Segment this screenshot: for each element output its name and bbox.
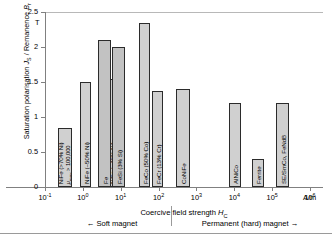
y-axis-tick xyxy=(41,47,46,48)
y-axis-tick-label: 0.5 xyxy=(0,148,38,156)
x-axis-tick-label: 102 xyxy=(139,193,179,202)
x-axis-line xyxy=(6,187,323,188)
bar-fe: Fe xyxy=(98,40,111,187)
x-axis-tick xyxy=(272,187,273,191)
bar-label: FeSi (3% Si) xyxy=(115,150,122,184)
x-axis-tick xyxy=(121,187,122,191)
x-axis-tick xyxy=(83,187,84,191)
y-axis-line xyxy=(45,12,46,187)
bar-fesi-3-si: FeSi (3% Si) xyxy=(112,47,125,187)
bar-ferrite: Ferrite xyxy=(252,159,264,187)
category-divider xyxy=(171,206,172,226)
x-axis-tick-label: 101 xyxy=(101,193,141,202)
figure-bottom-rule xyxy=(0,233,332,234)
plot-top-rule xyxy=(45,12,323,13)
x-axis-tick-label: 105 xyxy=(252,193,292,202)
y-axis-unit: T xyxy=(35,18,40,27)
bar-conife: CoNiFe xyxy=(176,89,190,187)
x-axis-tick-label: 106 xyxy=(290,193,330,202)
y-axis-tick xyxy=(41,152,46,153)
bar-label: NiFe (>70% Ni)μmax > 100,000 xyxy=(58,142,71,184)
bar-label: SE/SmCo, FeNdB xyxy=(279,135,286,184)
bar-alnico: AlNiCo xyxy=(229,103,241,187)
y-axis-tick xyxy=(41,117,46,118)
bar-fecr-13-cr: FeCr (13% Cr) xyxy=(152,91,163,187)
bar-label: NiFe (~50% Ni) xyxy=(82,142,89,184)
y-axis-tick-label: 2 xyxy=(0,43,38,51)
x-axis-tick xyxy=(196,187,197,191)
bar-label: FeCo (50% Co) xyxy=(141,142,148,184)
soft-magnet-caption: ← Soft magnet xyxy=(56,219,168,228)
x-axis-title: Coercive field strength HC xyxy=(45,208,323,217)
magnetic-materials-chart: Saturation polarisation JS / Remanence B… xyxy=(0,0,332,243)
bar-label: CoNiFe xyxy=(180,163,187,184)
bar-nife-70-ni: NiFe (>70% Ni)μmax > 100,000 xyxy=(58,128,72,188)
bar-label: Fe xyxy=(101,177,108,184)
x-axis-tick-label: 104 xyxy=(214,193,254,202)
x-axis-tick xyxy=(159,187,160,191)
bar-feco-50-co: FeCo (50% Co) xyxy=(139,23,150,188)
x-axis-tick xyxy=(45,187,46,191)
x-axis-tick-label: 100 xyxy=(63,193,103,202)
y-axis-tick-label: 0 xyxy=(0,183,38,191)
bar-nife-50-ni: NiFe (~50% Ni) xyxy=(80,82,91,187)
x-axis-tick xyxy=(310,187,311,191)
y-axis-tick-label: 1 xyxy=(0,113,38,121)
bar-label: Ferrite xyxy=(255,166,262,184)
x-axis-tick-label: 103 xyxy=(176,193,216,202)
x-axis-tick xyxy=(234,187,235,191)
bar-label: FeCr (13% Cr) xyxy=(154,144,161,184)
y-axis-tick-label: 1.5 xyxy=(0,78,38,86)
x-axis-tick-label: 10-1 xyxy=(25,193,65,202)
y-axis-tick xyxy=(41,82,46,83)
hard-magnet-caption: Permanent (hard) magnet → xyxy=(175,219,325,228)
y-axis-tick-label: 2.5 xyxy=(0,8,38,16)
bar-se-smco-fendb: SE/SmCo, FeNdB xyxy=(276,103,289,187)
bar-label: AlNiCo xyxy=(232,165,239,184)
y-axis-tick xyxy=(41,12,46,13)
